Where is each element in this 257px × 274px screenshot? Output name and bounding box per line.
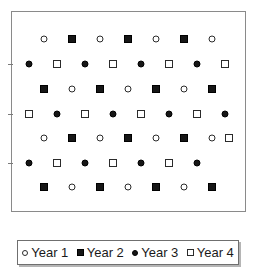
data-point-open-square-icon — [193, 110, 201, 118]
data-point-open-circle-icon — [69, 86, 76, 93]
data-point-filled-square-icon — [68, 134, 76, 142]
data-point-open-square-icon — [53, 159, 61, 167]
data-point-open-square-icon — [81, 110, 89, 118]
data-point-open-square-icon — [137, 110, 145, 118]
open-circle-icon — [22, 250, 28, 256]
open-square-icon — [187, 249, 194, 256]
data-point-open-circle-icon — [209, 135, 216, 142]
filled-square-icon — [77, 249, 84, 256]
scatter-plot-figure: Year 1Year 2Year 3Year 4 — [0, 0, 257, 274]
data-point-filled-circle-icon — [82, 61, 89, 68]
data-point-filled-square-icon — [208, 85, 216, 93]
data-point-open-circle-icon — [97, 135, 104, 142]
data-point-filled-circle-icon — [166, 111, 173, 118]
data-point-open-square-icon — [53, 60, 61, 68]
data-point-filled-square-icon — [40, 85, 48, 93]
data-point-filled-square-icon — [180, 35, 188, 43]
data-point-open-square-icon — [25, 110, 33, 118]
data-point-filled-square-icon — [40, 183, 48, 191]
data-point-filled-square-icon — [152, 85, 160, 93]
legend-entry-3[interactable]: Year 3 — [132, 246, 178, 259]
data-point-open-square-icon — [109, 60, 117, 68]
data-point-filled-circle-icon — [138, 61, 145, 68]
data-point-filled-square-icon — [96, 85, 104, 93]
filled-circle-icon — [132, 250, 138, 256]
legend-label: Year 2 — [87, 246, 124, 259]
data-point-open-circle-icon — [41, 36, 48, 43]
legend-entry-4[interactable]: Year 4 — [187, 246, 234, 259]
data-point-filled-circle-icon — [222, 111, 229, 118]
data-point-open-circle-icon — [125, 86, 132, 93]
data-point-filled-circle-icon — [110, 111, 117, 118]
data-point-open-square-icon — [165, 159, 173, 167]
data-point-filled-circle-icon — [26, 61, 33, 68]
legend-entry-2[interactable]: Year 2 — [77, 246, 124, 259]
data-point-open-square-icon — [225, 134, 233, 142]
data-point-open-circle-icon — [153, 135, 160, 142]
data-point-open-square-icon — [221, 60, 229, 68]
y-axis-tick — [8, 114, 13, 115]
data-point-filled-square-icon — [124, 35, 132, 43]
data-point-open-circle-icon — [153, 36, 160, 43]
data-point-filled-circle-icon — [54, 111, 61, 118]
legend-label: Year 1 — [31, 246, 68, 259]
data-point-filled-circle-icon — [138, 160, 145, 167]
data-point-filled-circle-icon — [82, 160, 89, 167]
data-point-open-circle-icon — [181, 86, 188, 93]
data-point-open-square-icon — [109, 159, 117, 167]
data-point-open-circle-icon — [97, 36, 104, 43]
data-point-open-circle-icon — [41, 135, 48, 142]
data-point-filled-square-icon — [152, 183, 160, 191]
y-axis-tick — [8, 163, 13, 164]
data-point-filled-square-icon — [208, 183, 216, 191]
data-point-filled-square-icon — [96, 183, 104, 191]
data-point-open-circle-icon — [69, 184, 76, 191]
data-point-filled-circle-icon — [194, 61, 201, 68]
legend-entry-1[interactable]: Year 1 — [22, 246, 68, 259]
data-point-filled-square-icon — [180, 134, 188, 142]
chart-legend: Year 1Year 2Year 3Year 4 — [17, 240, 239, 265]
data-point-open-circle-icon — [181, 184, 188, 191]
data-point-filled-circle-icon — [194, 160, 201, 167]
plot-area — [11, 11, 246, 212]
data-point-filled-square-icon — [68, 35, 76, 43]
y-axis-tick — [8, 64, 13, 65]
data-point-open-circle-icon — [209, 36, 216, 43]
legend-label: Year 4 — [197, 246, 234, 259]
data-point-filled-square-icon — [124, 134, 132, 142]
data-point-filled-circle-icon — [26, 160, 33, 167]
data-point-open-square-icon — [165, 60, 173, 68]
data-point-open-circle-icon — [125, 184, 132, 191]
legend-label: Year 3 — [141, 246, 178, 259]
